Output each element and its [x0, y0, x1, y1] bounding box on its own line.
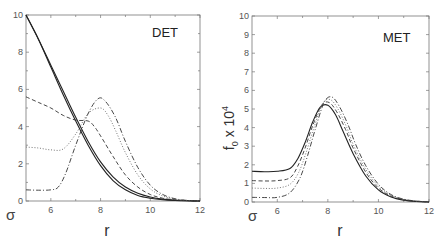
det-series-dash-dot [26, 98, 200, 201]
det-x-tick-label: 6 [48, 205, 53, 215]
det-ticks: 0246810681012 [13, 10, 205, 215]
met-y-tick-label: 8 [244, 48, 249, 58]
det-x-tick-label: 10 [145, 205, 155, 215]
met-sigma-label: σ [248, 207, 258, 224]
det-y-tick-label: 10 [13, 10, 23, 20]
det-series-solid-2 [26, 15, 200, 201]
met-y-tick-label: 0 [244, 197, 249, 207]
met-series-dashed [252, 102, 429, 202]
det-x-axis-title: r [104, 222, 110, 239]
met-y-title-sup: 4 [220, 106, 230, 111]
det-panel: 0246810681012 DET σ r [6, 10, 205, 239]
met-series-solid [252, 105, 429, 202]
met-x-tick-label: 8 [325, 206, 330, 216]
figure-svg: 0246810681012 DET σ r 012345678910681012… [0, 0, 446, 242]
met-y-tick-label: 9 [244, 30, 249, 40]
det-y-tick-label: 8 [18, 47, 23, 57]
det-sigma-label: σ [6, 206, 16, 223]
met-series [252, 97, 429, 202]
met-y-tick-label: 10 [239, 11, 249, 21]
met-y-tick-label: 5 [244, 104, 249, 114]
det-panel-label: DET [152, 25, 178, 40]
det-series-dotted [26, 108, 200, 201]
met-panel: 012345678910681012 MET σ r f0 x 104 [220, 11, 434, 239]
svg-text:f0 x 104: f0 x 104 [220, 106, 240, 150]
figure: 0246810681012 DET σ r 012345678910681012… [0, 0, 446, 242]
met-x-tick-label: 6 [275, 206, 280, 216]
met-y-tick-label: 3 [244, 141, 249, 151]
met-y-tick-label: 4 [244, 123, 249, 133]
met-x-axis-title: r [337, 222, 343, 239]
met-x-tick-label: 12 [424, 206, 434, 216]
met-y-tick-label: 7 [244, 67, 249, 77]
det-x-tick-label: 12 [195, 205, 205, 215]
met-y-tick-label: 2 [244, 160, 249, 170]
det-y-tick-label: 0 [18, 196, 23, 206]
det-y-tick-label: 6 [18, 84, 23, 94]
met-y-axis-title: f0 x 104 [220, 106, 240, 150]
met-y-title-mid: x 10 [221, 111, 237, 142]
met-series-dotted [252, 99, 429, 202]
det-plot-frame [26, 15, 200, 201]
det-y-tick-label: 2 [18, 159, 23, 169]
met-panel-label: MET [383, 30, 411, 45]
met-y-tick-label: 1 [244, 178, 249, 188]
met-x-tick-label: 10 [373, 206, 383, 216]
met-series-dash-dot [252, 97, 429, 202]
det-series [26, 15, 200, 201]
det-series-solid-1 [26, 15, 200, 201]
det-y-tick-label: 4 [18, 122, 23, 132]
det-x-tick-label: 8 [98, 205, 103, 215]
met-y-tick-label: 6 [244, 85, 249, 95]
